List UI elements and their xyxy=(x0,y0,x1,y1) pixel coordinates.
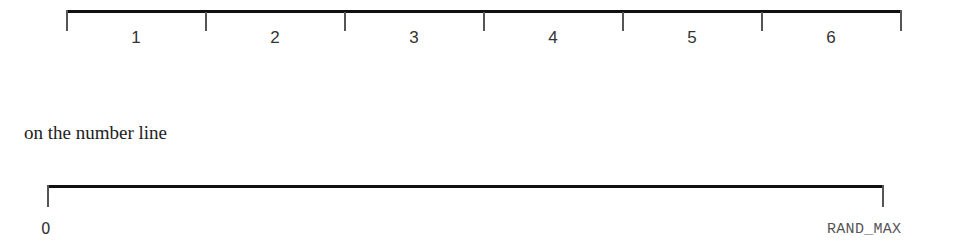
start-label-zero: 0 xyxy=(41,220,51,238)
top-tick-5 xyxy=(761,12,763,31)
bottom-line-bar xyxy=(47,185,884,188)
top-tick-0 xyxy=(66,10,68,31)
segment-label-3: 3 xyxy=(394,28,434,48)
top-tick-4 xyxy=(622,12,624,31)
segment-label-1: 1 xyxy=(116,28,156,48)
segment-label-2: 2 xyxy=(255,28,295,48)
segment-label-4: 4 xyxy=(533,28,573,48)
segment-label-5: 5 xyxy=(672,28,712,48)
bottom-tick-end xyxy=(882,185,884,207)
end-label-rand-max: RAND_MAX xyxy=(827,221,901,238)
top-tick-1 xyxy=(205,12,207,31)
top-tick-6 xyxy=(900,10,902,31)
segment-label-6: 6 xyxy=(811,28,851,48)
top-tick-2 xyxy=(344,12,346,31)
caption-text: on the number line xyxy=(24,122,167,144)
bottom-tick-start xyxy=(47,185,49,207)
top-tick-3 xyxy=(483,12,485,31)
